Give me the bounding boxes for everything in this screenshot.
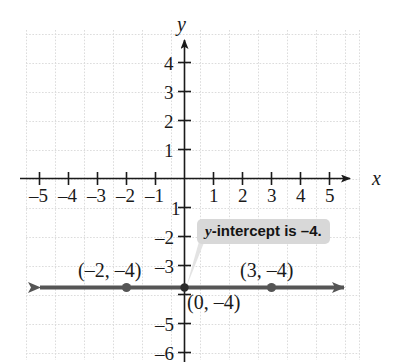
y-tick-label-neg3: –3 [155, 257, 174, 276]
x-tick-label-5: 5 [325, 186, 335, 205]
point-3-neg4 [267, 283, 276, 292]
y-tick-label-2: 2 [164, 112, 174, 131]
x-tick-label-neg4: –4 [58, 186, 77, 205]
x-tick-label-2: 2 [238, 186, 248, 205]
point-label-3-neg4: (3, –4) [240, 260, 293, 280]
y-intercept-callout: y-intercept is –4. [197, 219, 330, 244]
x-tick-label-4: 4 [296, 186, 306, 205]
y-tick-label-neg6: –6 [155, 344, 174, 362]
x-axis-label: x [372, 168, 381, 188]
y-tick-label-4: 4 [164, 54, 174, 73]
point-label-neg2-neg4: (–2, –4) [78, 260, 141, 280]
callout-rest-text: -intercept is –4. [212, 222, 322, 239]
x-tick-label-neg1: –1 [145, 186, 164, 205]
y-tick-label-neg2: –2 [155, 228, 174, 247]
x-tick-label-neg5: –5 [29, 186, 48, 205]
y-tick-label-neg1: 1 [171, 199, 181, 218]
y-tick-label-neg5: –5 [155, 315, 174, 334]
graph-figure: –5 –4 –3 –2 –1 1 2 3 4 5 4 3 2 1 1 –2 –3… [0, 0, 397, 362]
callout-italic-y: y [205, 223, 212, 239]
y-tick-label-1: 1 [164, 141, 174, 160]
y-axis-label: y [177, 14, 186, 34]
x-tick-label-3: 3 [267, 186, 277, 205]
x-tick-label-1: 1 [209, 186, 219, 205]
point-neg2-neg4 [122, 283, 131, 292]
x-tick-label-neg2: –2 [116, 186, 135, 205]
y-tick-label-3: 3 [164, 83, 174, 102]
x-tick-label-neg3: –3 [87, 186, 106, 205]
point-label-0-neg4: (0, –4) [187, 292, 240, 312]
